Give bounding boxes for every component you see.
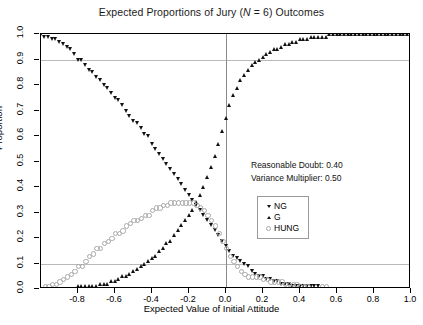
data-point-ng	[72, 52, 76, 56]
data-point-ng	[116, 98, 120, 102]
data-point-hung	[346, 287, 351, 288]
data-point-g	[205, 175, 209, 179]
data-point-ng	[349, 287, 353, 288]
data-point-ng	[346, 287, 350, 288]
y-tick-label: 0.1	[15, 255, 25, 268]
chart-legend: NGGHUNG	[257, 196, 309, 239]
y-tick-mark	[34, 33, 39, 34]
y-tick-mark	[34, 237, 39, 238]
legend-item-g[interactable]: G	[263, 212, 299, 223]
data-point-hung	[342, 287, 347, 288]
data-point-hung	[357, 287, 362, 288]
data-point-ng	[139, 126, 143, 130]
data-point-g	[201, 185, 205, 189]
y-axis-label: Proportion	[0, 106, 4, 150]
data-point-ng	[172, 172, 176, 176]
data-point-ng	[68, 47, 72, 51]
y-tick-label: 0.3	[15, 204, 25, 217]
data-point-g	[57, 287, 61, 288]
legend-item-ng[interactable]: NG	[263, 201, 299, 212]
data-point-ng	[150, 142, 154, 146]
x-tick-mark	[262, 288, 263, 293]
data-point-hung	[379, 287, 384, 288]
gridline-horizontal	[41, 60, 409, 61]
data-point-ng	[187, 193, 191, 197]
data-point-g	[409, 33, 410, 36]
data-point-g	[42, 287, 46, 288]
chart-title-italic-n: N	[243, 6, 251, 18]
chart-title-prefix: Expected Proportions of Jury (	[99, 6, 243, 18]
data-point-hung	[339, 287, 344, 288]
data-point-ng	[375, 287, 379, 288]
annotation-reasonable-doubt: Reasonable Doubt: 0.40	[251, 160, 343, 170]
legend-label: G	[274, 212, 281, 223]
data-point-hung	[361, 287, 366, 288]
y-tick-mark	[34, 212, 39, 213]
data-point-g	[238, 78, 242, 82]
data-point-hung	[350, 287, 355, 288]
data-point-ng	[79, 58, 83, 62]
data-point-hung	[213, 223, 218, 228]
data-point-hung	[91, 251, 96, 256]
data-point-hung	[394, 287, 399, 288]
data-point-hung	[383, 287, 388, 288]
data-point-ng	[401, 287, 405, 288]
data-point-ng	[109, 91, 113, 95]
legend-item-hung[interactable]: HUNG	[263, 223, 299, 234]
data-point-g	[61, 287, 65, 288]
data-point-g	[65, 287, 69, 288]
data-point-ng	[120, 103, 124, 107]
y-tick-label: 0.6	[15, 128, 25, 141]
data-point-hung	[328, 287, 333, 288]
x-axis-label: Expected Value of Initial Attitude	[0, 303, 423, 314]
data-point-ng	[105, 86, 109, 90]
data-point-hung	[390, 287, 395, 288]
data-point-hung	[98, 246, 103, 251]
y-tick-label: 0.9	[15, 51, 25, 64]
y-tick-label: 1.0	[15, 26, 25, 39]
y-tick-label: 0.4	[15, 179, 25, 192]
data-point-ng	[364, 287, 368, 288]
data-point-g	[161, 246, 165, 250]
data-point-g	[220, 129, 224, 133]
legend-marker-icon	[263, 216, 274, 219]
data-point-g	[246, 68, 250, 72]
data-point-hung	[324, 284, 329, 288]
data-point-ng	[390, 287, 394, 288]
data-point-ng	[361, 287, 365, 288]
data-point-g	[172, 233, 176, 237]
data-point-ng	[368, 287, 372, 288]
data-point-ng	[164, 162, 168, 166]
triangle-up-icon	[267, 216, 271, 219]
legend-label: HUNG	[274, 223, 299, 234]
data-point-ng	[179, 182, 183, 186]
annotation-variance-multiplier: Variance Multiplier: 0.50	[251, 173, 342, 183]
data-point-g	[209, 165, 213, 169]
data-point-ng	[90, 70, 94, 74]
data-point-ng	[98, 78, 102, 82]
data-point-g	[153, 254, 157, 258]
data-point-ng	[338, 287, 342, 288]
data-point-g	[235, 86, 239, 90]
data-point-hung	[220, 239, 225, 244]
data-point-g	[168, 239, 172, 243]
legend-marker-icon	[263, 226, 274, 231]
data-point-ng	[320, 287, 324, 288]
y-tick-mark	[34, 161, 39, 162]
data-point-hung	[40, 287, 44, 288]
data-point-g	[53, 287, 57, 288]
data-point-g	[190, 208, 194, 212]
y-tick-label: 0.5	[15, 153, 25, 166]
data-point-ng	[342, 287, 346, 288]
data-point-hung	[146, 213, 151, 218]
x-tick-mark	[77, 288, 78, 293]
plot-area	[40, 33, 410, 288]
data-point-g	[50, 287, 54, 288]
y-tick-mark	[34, 84, 39, 85]
data-point-hung	[398, 287, 403, 288]
y-tick-label: 0.0	[15, 281, 25, 294]
data-point-ng	[168, 167, 172, 171]
data-point-g	[183, 218, 187, 222]
data-point-hung	[120, 228, 125, 233]
data-point-ng	[161, 157, 165, 161]
